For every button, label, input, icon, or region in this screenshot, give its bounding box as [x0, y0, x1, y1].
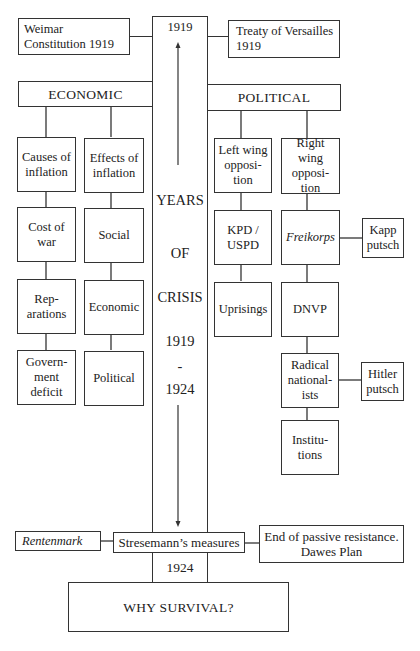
hitler-putsch-label: Hitler putsch: [364, 367, 401, 397]
center-word: -: [152, 358, 208, 375]
causes-header-box: Causes of inflation: [17, 137, 76, 192]
causes-item: Govern-ment deficit: [20, 355, 73, 400]
treaty-label: Treaty of Versailles 1919: [236, 24, 337, 54]
right-wing-item-box: Radical national-ists: [281, 353, 339, 408]
right-wing-item: Freikorps: [286, 230, 335, 245]
right-wing-header-box: Right wing opposi-tion: [281, 138, 340, 194]
stresemann-label: Stresemann’s measures: [119, 535, 240, 550]
effects-header: Effects of inflation: [87, 151, 141, 181]
year-start-box: 1919: [152, 16, 208, 37]
why-survival-box: WHY SURVIVAL?: [68, 582, 289, 632]
effects-header-box: Effects of inflation: [84, 138, 144, 193]
left-wing-item: Uprisings: [219, 302, 268, 317]
center-word: CRISIS: [152, 289, 208, 306]
left-wing-header: Left wing opposi-tion: [217, 143, 269, 188]
left-wing-item-box: KPD / USPD: [214, 210, 272, 265]
center-word: OF: [152, 245, 208, 262]
effects-item-box: Social: [84, 208, 144, 263]
kapp-putsch-box: Kapp putsch: [362, 218, 404, 258]
center-word: YEARS: [152, 192, 208, 209]
political-header-box: POLITICAL: [207, 84, 341, 111]
causes-header: Causes of inflation: [20, 150, 73, 180]
effects-item-box: Economic: [84, 280, 144, 335]
stresemann-box: Stresemann’s measures: [113, 532, 245, 553]
weimar-box: Weimar Constitution 1919: [18, 18, 130, 55]
causes-item-box: Cost of war: [17, 207, 76, 262]
arrow-up-head: [176, 42, 181, 48]
year-end-label: 1924: [152, 560, 208, 576]
why-survival-label: WHY SURVIVAL?: [123, 600, 233, 615]
right-wing-item-box: Institu-tions: [281, 420, 339, 475]
left-wing-item-box: Uprisings: [214, 282, 272, 337]
economic-header: ECONOMIC: [48, 87, 122, 102]
hitler-putsch-box: Hitler putsch: [361, 362, 404, 401]
treaty-box: Treaty of Versailles 1919: [228, 20, 340, 58]
left-wing-header-box: Left wing opposi-tion: [214, 138, 272, 193]
year-start-label: 1919: [168, 20, 193, 35]
left-wing-item: KPD / USPD: [217, 223, 269, 253]
weimar-label: Weimar Constitution 1919: [24, 22, 127, 52]
political-header: POLITICAL: [238, 90, 310, 105]
right-wing-item-box: DNVP: [281, 282, 339, 337]
passive-resistance-label: End of passive resistance. Dawes Plan: [262, 529, 401, 559]
center-word: 1924: [152, 381, 208, 398]
kapp-putsch-label: Kapp putsch: [365, 223, 401, 253]
right-wing-item-box: Freikorps: [281, 210, 340, 265]
effects-item: Economic: [89, 300, 140, 315]
right-wing-header: Right wing opposi-tion: [284, 136, 337, 196]
rentenmark-box: Rentenmark: [15, 531, 101, 551]
center-word: 1919: [152, 333, 208, 350]
effects-item: Social: [98, 228, 129, 243]
passive-resistance-box: End of passive resistance. Dawes Plan: [259, 525, 404, 563]
right-wing-item: DNVP: [293, 302, 327, 317]
effects-item: Political: [93, 371, 135, 386]
arrow-down-head: [176, 521, 181, 527]
effects-item-box: Political: [84, 351, 144, 406]
causes-item: Rep-arations: [20, 292, 73, 322]
right-wing-item: Institu-tions: [284, 433, 336, 463]
rentenmark-label: Rentenmark: [22, 534, 82, 549]
right-wing-item: Radical national-ists: [284, 358, 336, 403]
causes-item-box: Rep-arations: [17, 279, 76, 334]
causes-item: Cost of war: [20, 220, 73, 250]
economic-header-box: ECONOMIC: [18, 81, 153, 107]
causes-item-box: Govern-ment deficit: [17, 350, 76, 405]
